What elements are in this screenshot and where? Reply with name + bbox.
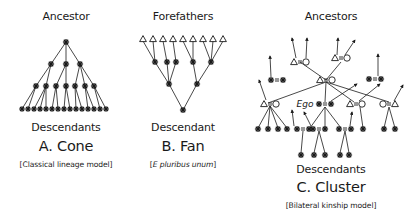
person-asterisk-icon bbox=[43, 106, 49, 112]
female-circle-icon bbox=[380, 101, 386, 107]
person-asterisk-icon bbox=[190, 59, 196, 65]
person-asterisk-icon bbox=[72, 83, 78, 89]
person-asterisk-icon bbox=[152, 59, 158, 65]
link-line bbox=[340, 131, 345, 153]
person-asterisk-icon bbox=[275, 126, 281, 132]
person-asterisk-icon bbox=[180, 107, 186, 113]
person-asterisk-icon bbox=[37, 106, 43, 112]
link-line bbox=[314, 131, 319, 153]
person-asterisk-icon bbox=[166, 81, 172, 87]
marriage-equals-icon bbox=[317, 128, 321, 130]
couple bbox=[332, 55, 351, 62]
person-asterisk-icon bbox=[284, 126, 290, 132]
person-asterisk-icon bbox=[55, 106, 61, 112]
link-line bbox=[66, 42, 80, 64]
person-asterisk-icon bbox=[79, 106, 85, 112]
link-line bbox=[183, 41, 193, 62]
person-asterisk-icon bbox=[280, 77, 286, 83]
fan-subtitle-text: E pluribus unum bbox=[153, 160, 214, 169]
person-asterisk-icon bbox=[316, 101, 322, 107]
person-asterisk-icon bbox=[378, 76, 384, 82]
person-asterisk-icon bbox=[19, 106, 25, 112]
link-line bbox=[51, 42, 66, 64]
person-asterisk-icon bbox=[346, 152, 352, 158]
cone-title: A. Cone bbox=[39, 138, 94, 154]
person-asterisk-icon bbox=[33, 83, 39, 89]
male-triangle-icon bbox=[150, 36, 157, 42]
couple bbox=[366, 76, 384, 82]
cone-top-label: Ancestor bbox=[42, 10, 89, 23]
person-asterisk-icon bbox=[67, 106, 73, 112]
person-asterisk-icon bbox=[48, 61, 54, 67]
link-line bbox=[384, 107, 389, 128]
fan-subtitle-close: ] bbox=[213, 160, 216, 169]
male-triangle-icon bbox=[347, 101, 354, 107]
male-triangle-icon bbox=[170, 36, 177, 42]
arrow-line bbox=[345, 40, 355, 55]
link-line bbox=[325, 107, 341, 128]
link-line bbox=[326, 82, 354, 102]
arrow-line bbox=[331, 84, 357, 101]
link-line bbox=[34, 86, 46, 109]
cluster-top-label: Ancestors bbox=[305, 10, 358, 23]
arrow-line bbox=[292, 38, 296, 58]
male-triangle-icon bbox=[190, 36, 197, 42]
male-triangle-icon bbox=[210, 36, 217, 42]
fan-title: B. Fan bbox=[161, 138, 204, 154]
person-asterisk-icon bbox=[268, 77, 274, 83]
arrow-line bbox=[394, 85, 403, 101]
fan-subtitle: [E pluribus unum] bbox=[150, 160, 216, 169]
link-line bbox=[193, 62, 197, 84]
person-asterisk-icon bbox=[73, 106, 79, 112]
cluster-subtitle: [Bilateral kinship model] bbox=[286, 201, 377, 210]
link-line bbox=[56, 86, 58, 109]
person-asterisk-icon bbox=[208, 59, 214, 65]
link-line bbox=[301, 131, 303, 153]
arrow-line bbox=[337, 38, 338, 55]
couple bbox=[291, 59, 310, 66]
marriage-equals-icon bbox=[275, 79, 279, 81]
person-asterisk-icon bbox=[49, 106, 55, 112]
person-asterisk-icon bbox=[255, 126, 261, 132]
link-line bbox=[310, 107, 325, 128]
person-asterisk-icon bbox=[82, 83, 88, 89]
marriage-equals-icon bbox=[323, 103, 327, 105]
person-asterisk-icon bbox=[53, 83, 59, 89]
fan-diagram bbox=[140, 36, 227, 114]
person-asterisk-icon bbox=[63, 83, 69, 89]
ego-label: Ego bbox=[297, 99, 314, 109]
person-asterisk-icon bbox=[43, 83, 49, 89]
person-asterisk-icon bbox=[310, 126, 316, 132]
person-asterisk-icon bbox=[97, 106, 103, 112]
male-triangle-icon bbox=[261, 101, 268, 107]
cluster-bottom-label: Descendants bbox=[296, 163, 365, 176]
male-triangle-icon bbox=[392, 101, 399, 107]
marriage-equals-icon bbox=[268, 103, 272, 105]
female-circle-icon bbox=[359, 101, 365, 107]
person-asterisk-icon bbox=[77, 61, 83, 67]
person-asterisk-icon bbox=[336, 126, 342, 132]
link-line bbox=[169, 84, 183, 110]
male-triangle-icon bbox=[160, 36, 167, 42]
cluster-title: C. Cluster bbox=[297, 179, 366, 195]
female-circle-icon bbox=[344, 55, 350, 61]
person-asterisk-icon bbox=[366, 76, 372, 82]
person-asterisk-icon bbox=[164, 59, 170, 65]
link-line bbox=[319, 131, 325, 153]
link-line bbox=[345, 131, 349, 153]
person-asterisk-icon bbox=[328, 101, 334, 107]
person-asterisk-icon bbox=[173, 59, 179, 65]
cone-diagram bbox=[19, 39, 109, 112]
link-line bbox=[64, 86, 66, 109]
person-asterisk-icon bbox=[61, 106, 67, 112]
marriage-equals-icon bbox=[373, 78, 377, 80]
link-line bbox=[389, 107, 395, 128]
cluster-diagram bbox=[255, 38, 403, 158]
person-asterisk-icon bbox=[392, 126, 398, 132]
link-line bbox=[360, 107, 363, 128]
couple bbox=[380, 101, 399, 108]
link-line bbox=[270, 106, 278, 128]
fan-top-label: Forefathers bbox=[153, 10, 213, 23]
person-asterisk-icon bbox=[337, 152, 343, 158]
marriage-equals-icon bbox=[343, 128, 347, 130]
